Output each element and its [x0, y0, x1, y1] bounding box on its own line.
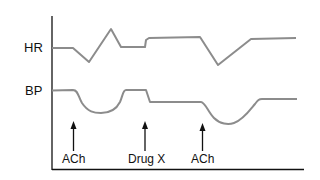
bp-trace [52, 90, 297, 124]
event-label-drug-x: Drug X [128, 153, 165, 165]
arrow-drug-x [142, 121, 148, 151]
hr-label: HR [24, 41, 43, 54]
event-label-ach-2: ACh [191, 153, 214, 165]
arrow-ach-2 [200, 123, 206, 151]
hr-trace [52, 29, 296, 65]
event-label-ach-1: ACh [62, 153, 85, 165]
bp-label: BP [25, 84, 42, 97]
arrow-ach-1 [71, 121, 77, 151]
